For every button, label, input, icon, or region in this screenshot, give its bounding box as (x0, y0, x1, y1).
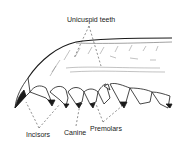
bone-hatching (50, 45, 165, 76)
label-canine: Canine (64, 129, 86, 136)
teeth (15, 78, 172, 108)
label-incisors: Incisors (26, 131, 50, 138)
label-premolars: Premolars (90, 125, 122, 132)
leader-lines (26, 26, 122, 128)
label-unicuspid-teeth: Unicuspid teeth (67, 16, 115, 23)
jaw-diagram: Unicuspid teeth Incisors Canine Premolar… (0, 0, 187, 156)
